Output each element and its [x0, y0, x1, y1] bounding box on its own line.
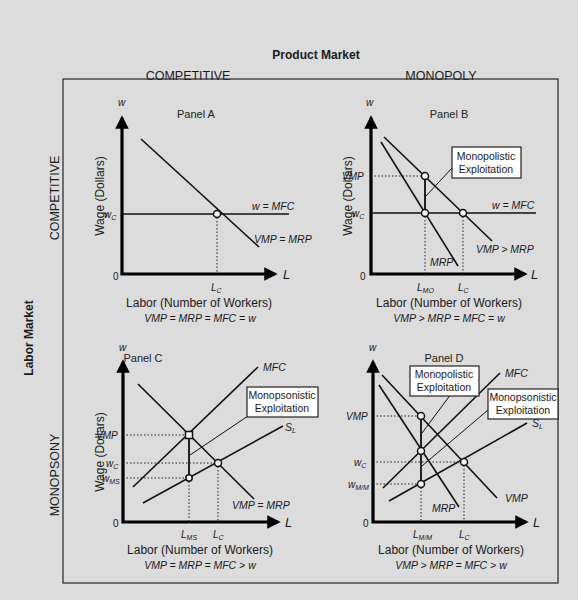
panel-b-vmp-label: VMP > MRP	[476, 243, 534, 255]
panel-c: Panel C w Wage (Dollars) L 0 Monopsonist…	[93, 342, 318, 571]
panel-b-lmo-tick: LMO	[417, 282, 434, 294]
panel-c-mfc-label: MFC	[263, 361, 286, 373]
panel-d-mrp-label: MRP	[432, 502, 455, 514]
panel-b-mrp-line	[381, 142, 458, 266]
panel-a-x-letter: L	[283, 267, 290, 282]
panel-c-vmp-point	[186, 432, 193, 439]
panel-d-vmp-point	[418, 413, 425, 420]
panel-c-vmp-tick: VMP	[96, 430, 118, 441]
panel-c-sl-line	[143, 426, 283, 503]
panel-d-wmm-tick: wM/M	[348, 479, 369, 491]
panel-b: Panel B w Wage (Dollars) L 0 Monopolisti…	[341, 97, 538, 324]
panel-d-title: Panel D	[424, 352, 463, 364]
panel-c-wc-tick: wC	[106, 458, 119, 470]
panel-a-x-axis-title: Labor (Number of Workers)	[126, 296, 272, 310]
panel-b-title: Panel B	[430, 108, 469, 120]
labor-market-diagram: Product Market COMPETITIVE MONOPOLY Labo…	[0, 0, 578, 600]
row-header-competitive: COMPETITIVE	[48, 156, 62, 241]
panel-c-lc-tick: LC	[213, 529, 225, 541]
panel-b-wc-tick: wC	[352, 208, 365, 220]
panel-d-x-axis-title: Labor (Number of Workers)	[378, 543, 524, 557]
panel-c-box-line1: Monopsonistic	[248, 389, 315, 401]
panel-b-y-axis-title: Wage (Dollars)	[341, 156, 355, 236]
panel-b-mrp-point	[422, 210, 429, 217]
panel-d: Panel D w L 0 Monopolistic Exploitation …	[346, 342, 558, 571]
panel-d-right-box-leader	[422, 410, 488, 466]
panel-c-vmp-line	[138, 384, 254, 499]
panel-a-equation: VMP = MRP = MFC = w	[144, 312, 257, 324]
panel-d-x-letter: L	[533, 515, 540, 530]
panel-d-equation: VMP > MRP = MFC > w	[395, 559, 508, 571]
panel-a-origin: 0	[113, 271, 119, 282]
panel-b-mfc-label: w = MFC	[492, 199, 535, 211]
panel-d-wc-tick: wC	[354, 457, 367, 469]
panel-d-left-box-leader	[422, 394, 451, 433]
panel-c-mfc-line	[133, 367, 258, 487]
panel-b-x-letter: L	[531, 267, 538, 282]
panel-d-competitive-point	[461, 459, 468, 466]
panel-c-wms-tick: wMS	[102, 473, 120, 485]
panel-b-vmp-point	[422, 173, 429, 180]
panel-b-x-axis-title: Labor (Number of Workers)	[376, 296, 522, 310]
panel-b-y-letter: w	[366, 97, 374, 108]
panel-a-equilibrium-point	[214, 211, 221, 218]
panel-d-lmm-tick: LM/M	[413, 529, 432, 541]
column-header-monopoly: MONOPOLY	[405, 69, 477, 83]
panel-a-axes	[122, 118, 275, 274]
panel-b-box-line1: Monopolistic	[457, 150, 515, 162]
panel-d-left-box-line1: Monopolistic	[415, 368, 473, 380]
panel-a-vmp-label: VMP = MRP	[254, 233, 312, 245]
panel-a-title: Panel A	[177, 108, 216, 120]
panel-d-right-box-line2: Exploitation	[496, 404, 550, 416]
panel-b-lc-tick: LC	[458, 282, 470, 294]
panel-a-y-letter: w	[118, 97, 126, 108]
panel-c-box-line2: Exploitation	[255, 402, 309, 414]
panel-b-mrp-label: MRP	[430, 256, 453, 268]
row-header-monopsony: MONOPSONY	[48, 433, 62, 516]
panel-a: Panel A w Wage (Dollars) L 0 w = MFC VMP…	[93, 97, 312, 324]
panel-a-lc-tick: LC	[211, 282, 223, 294]
panel-c-vmp-label: VMP = MRP	[232, 499, 290, 511]
panel-d-mfc-label: MFC	[505, 367, 528, 379]
panel-b-box-line2: Exploitation	[459, 163, 513, 175]
panel-c-lms-tick: LMS	[181, 529, 197, 541]
column-header-competitive: COMPETITIVE	[146, 69, 231, 83]
panel-b-competitive-point	[460, 210, 467, 217]
panel-a-y-axis-title: Wage (Dollars)	[93, 156, 107, 236]
panel-d-vmp-tick: VMP	[346, 411, 368, 422]
panel-c-y-letter: w	[119, 342, 127, 353]
panel-c-competitive-point	[215, 460, 222, 467]
panel-a-mfc-label: w = MFC	[252, 200, 295, 212]
panel-b-origin: 0	[360, 271, 366, 282]
panel-c-origin: 0	[113, 518, 119, 529]
panel-d-wmm-point	[418, 481, 425, 488]
product-market-header: Product Market	[272, 48, 359, 62]
panel-a-vmp-line	[141, 139, 259, 247]
panel-d-mrp-line	[379, 385, 459, 507]
panel-c-x-letter: L	[285, 515, 292, 530]
panel-d-right-box-line1: Monopsonistic	[489, 391, 556, 403]
panel-c-wms-point	[186, 475, 192, 481]
panel-d-vmp-label: VMP	[505, 492, 528, 504]
panel-d-lc-tick: LC	[459, 529, 471, 541]
panel-d-origin: 0	[363, 518, 369, 529]
panel-c-x-axis-title: Labor (Number of Workers)	[127, 543, 273, 557]
panel-c-equation: VMP = MRP = MFC > w	[144, 559, 257, 571]
panel-c-sl-label: SL	[285, 421, 296, 434]
panel-d-mfc-point	[418, 448, 425, 455]
panel-d-left-box-line2: Exploitation	[417, 381, 471, 393]
panel-a-wc-tick: wC	[104, 209, 117, 221]
labor-market-header: Labor Market	[22, 300, 36, 375]
panel-b-vmp-tick: VMP	[342, 171, 364, 182]
panel-c-title: Panel C	[123, 352, 162, 364]
panel-d-y-letter: w	[369, 342, 377, 353]
panel-b-equation: VMP > MRP = MFC = w	[393, 312, 506, 324]
